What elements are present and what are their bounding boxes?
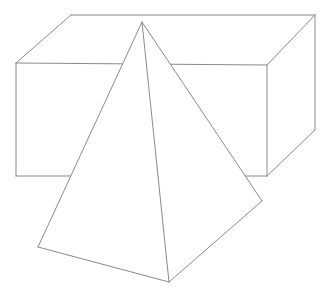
solids-illustration <box>0 0 332 296</box>
drawing-canvas <box>0 0 332 296</box>
